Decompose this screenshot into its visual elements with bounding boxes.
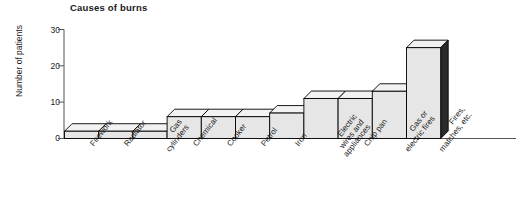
bars-group — [65, 40, 449, 138]
chart-plot-svg — [0, 0, 527, 213]
bar-front-face — [304, 99, 338, 139]
chart-container: Causes of burns Number of patients 30 20… — [0, 0, 527, 213]
